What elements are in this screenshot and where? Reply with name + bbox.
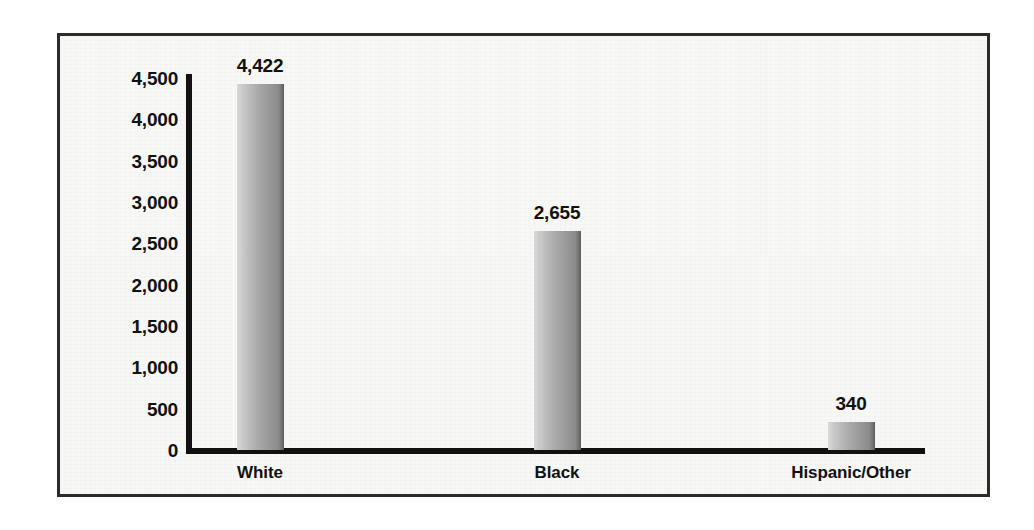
y-axis-tick: 4,000 (78, 110, 178, 129)
bar-value-label: 2,655 (477, 203, 637, 222)
bar (828, 422, 875, 450)
bar-value-label: 4,422 (180, 56, 340, 75)
y-axis-line (186, 74, 192, 454)
y-axis-tick-label: 3,500 (78, 152, 178, 171)
y-axis-tick: 2,000 (78, 276, 178, 295)
y-axis-tick: 3,000 (78, 193, 178, 212)
y-axis-tick-label: 0 (78, 441, 178, 460)
x-axis-category-label: White (130, 464, 390, 481)
y-axis-tick-label: 4,500 (78, 69, 178, 88)
y-axis-tick-label: 2,500 (78, 234, 178, 253)
bar-value-label: 340 (771, 394, 931, 413)
bar-fill (237, 84, 284, 450)
x-axis-category-label: Black (427, 464, 687, 481)
y-axis-tick: 2,500 (78, 234, 178, 253)
y-axis-tick: 0 (78, 441, 178, 460)
y-axis-tick: 1,500 (78, 317, 178, 336)
y-axis-tick-label: 1,500 (78, 317, 178, 336)
chart-page: 4,5004,0003,5003,0002,5002,0001,5001,000… (0, 0, 1034, 530)
x-axis-category-label: Hispanic/Other (721, 464, 981, 481)
y-axis-tick-label: 4,000 (78, 110, 178, 129)
y-axis-tick: 1,000 (78, 358, 178, 377)
y-axis-tick: 4,500 (78, 69, 178, 88)
y-axis-tick-label: 1,000 (78, 358, 178, 377)
plot-area: 4,5004,0003,5003,0002,5002,0001,5001,000… (0, 0, 1034, 530)
bar (534, 231, 581, 450)
bar-fill (534, 231, 581, 450)
y-axis-tick-label: 500 (78, 400, 178, 419)
y-axis-tick-label: 3,000 (78, 193, 178, 212)
bar (237, 84, 284, 450)
y-axis-tick-label: 2,000 (78, 276, 178, 295)
y-axis-tick: 3,500 (78, 152, 178, 171)
y-axis-tick: 500 (78, 400, 178, 419)
bar-fill (828, 422, 875, 450)
